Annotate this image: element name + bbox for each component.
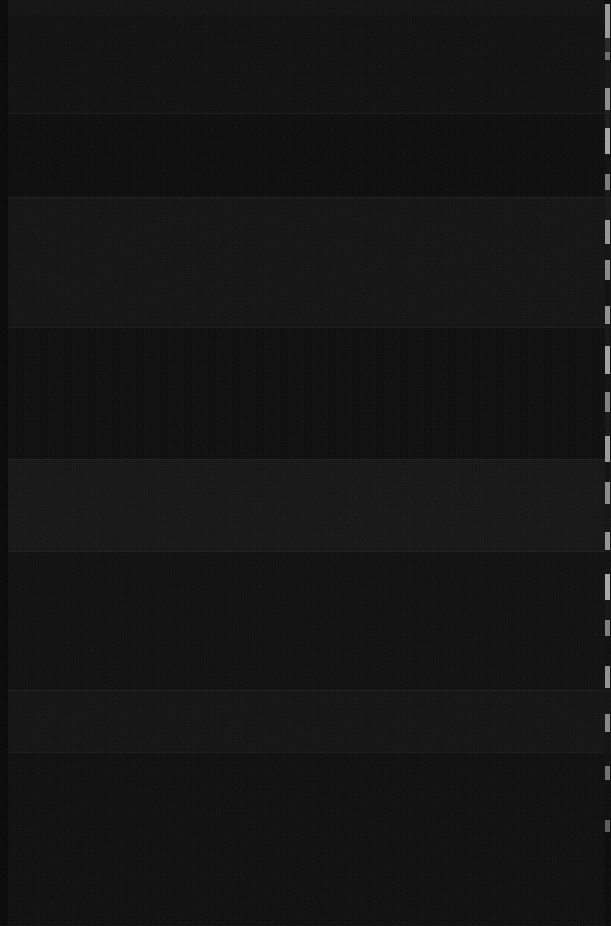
row-divider-5 bbox=[0, 690, 611, 691]
edge-sliver-segment-34 bbox=[605, 766, 610, 780]
edge-sliver-segment-31 bbox=[605, 688, 610, 714]
edge-sliver-segment-12 bbox=[605, 260, 610, 280]
row-divider-1 bbox=[0, 197, 611, 198]
edge-sliver-segment-14 bbox=[605, 306, 610, 324]
content-band-4 bbox=[0, 459, 611, 551]
edge-sliver-segment-35 bbox=[605, 780, 610, 820]
edge-sliver-segment-19 bbox=[605, 412, 610, 436]
edge-sliver-segment-4 bbox=[605, 88, 610, 110]
content-band-3 bbox=[0, 327, 611, 459]
edge-sliver-segment-13 bbox=[605, 280, 610, 306]
edge-sliver-segment-32 bbox=[605, 714, 610, 732]
edge-sliver-segment-37 bbox=[605, 832, 610, 926]
right-edge-sliver bbox=[605, 0, 610, 926]
row-divider-6 bbox=[0, 752, 611, 753]
edge-sliver-segment-20 bbox=[605, 436, 610, 462]
edge-sliver-segment-18 bbox=[605, 392, 610, 412]
edge-sliver-segment-11 bbox=[605, 244, 610, 260]
edge-sliver-segment-17 bbox=[605, 374, 610, 392]
edge-sliver-segment-21 bbox=[605, 462, 610, 482]
edge-sliver-segment-36 bbox=[605, 820, 610, 832]
content-band-6 bbox=[0, 690, 611, 752]
edge-sliver-segment-26 bbox=[605, 574, 610, 600]
top-strip bbox=[0, 0, 611, 14]
edge-sliver-segment-5 bbox=[605, 110, 610, 128]
content-band-7 bbox=[0, 752, 611, 926]
content-band-5 bbox=[0, 551, 611, 690]
edge-sliver-segment-16 bbox=[605, 346, 610, 374]
edge-sliver-segment-15 bbox=[605, 324, 610, 346]
edge-sliver-segment-22 bbox=[605, 482, 610, 504]
edge-sliver-segment-33 bbox=[605, 732, 610, 766]
left-gutter bbox=[0, 0, 8, 926]
edge-sliver-segment-8 bbox=[605, 174, 610, 190]
edge-sliver-segment-0 bbox=[605, 4, 610, 38]
edge-sliver-segment-30 bbox=[605, 666, 610, 688]
row-divider-2 bbox=[0, 327, 611, 328]
row-divider-3 bbox=[0, 459, 611, 460]
edge-sliver-segment-25 bbox=[605, 550, 610, 574]
edge-sliver-segment-28 bbox=[605, 620, 610, 636]
edge-sliver-segment-6 bbox=[605, 128, 610, 154]
edge-sliver-segment-10 bbox=[605, 220, 610, 244]
edge-sliver-segment-1 bbox=[605, 38, 610, 52]
row-divider-0 bbox=[0, 113, 611, 114]
content-band-1 bbox=[0, 113, 611, 197]
screen-capture: Near-black screen capture; no legible te… bbox=[0, 0, 611, 926]
edge-sliver-segment-29 bbox=[605, 636, 610, 666]
row-divider-4 bbox=[0, 551, 611, 552]
edge-sliver-segment-27 bbox=[605, 600, 610, 620]
edge-sliver-segment-9 bbox=[605, 190, 610, 220]
content-band-0 bbox=[0, 14, 611, 113]
content-band-2 bbox=[0, 197, 611, 327]
edge-sliver-segment-7 bbox=[605, 154, 610, 174]
edge-sliver-segment-3 bbox=[605, 60, 610, 88]
edge-sliver-segment-2 bbox=[605, 52, 610, 60]
edge-sliver-segment-23 bbox=[605, 504, 610, 532]
edge-sliver-segment-24 bbox=[605, 532, 610, 550]
